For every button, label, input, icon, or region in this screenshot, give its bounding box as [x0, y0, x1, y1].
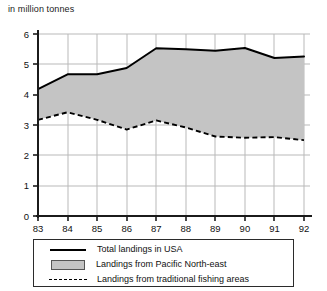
filled-swatch-icon [51, 260, 85, 270]
x-tick-label: 84 [62, 223, 73, 234]
y-axis-tick-labels: 0123456 [24, 29, 29, 222]
legend-item-pacific-north-east: Landings from Pacific North-east [34, 257, 293, 272]
legend: Total landings in USA Landings from Paci… [33, 239, 294, 287]
dashed-line-icon [48, 274, 88, 285]
y-tick-label: 3 [24, 120, 29, 131]
x-tick-label: 91 [269, 223, 280, 234]
legend-item-traditional-areas: Landings from traditional fishing areas [34, 272, 293, 287]
y-tick-label: 2 [24, 150, 29, 161]
x-tick-label: 90 [240, 223, 251, 234]
chart-figure: in million tonnes [0, 0, 327, 291]
y-tick-label: 5 [24, 59, 29, 70]
legend-item-label: Total landings in USA [97, 244, 183, 255]
x-tick-label: 92 [299, 223, 310, 234]
solid-line-icon [48, 244, 88, 255]
x-tick-label: 86 [121, 223, 132, 234]
x-tick-label: 88 [180, 223, 191, 234]
x-axis-tick-labels: 83848586878889909192 [33, 223, 310, 234]
y-tick-label: 4 [24, 89, 29, 100]
pacific-north-east-band [38, 48, 304, 140]
x-tick-label: 85 [92, 223, 103, 234]
y-tick-label: 6 [24, 29, 29, 40]
x-tick-label: 87 [151, 223, 162, 234]
x-tick-label: 83 [33, 223, 44, 234]
y-tick-label: 1 [24, 180, 29, 191]
x-tick-label: 89 [210, 223, 221, 234]
y-tick-label: 0 [24, 211, 29, 222]
legend-item-label: Landings from Pacific North-east [96, 259, 227, 270]
legend-item-total-landings: Total landings in USA [34, 242, 293, 257]
legend-item-label: Landings from traditional fishing areas [97, 274, 249, 285]
plot-area: 0123456 83848586878889909192 [0, 0, 327, 238]
